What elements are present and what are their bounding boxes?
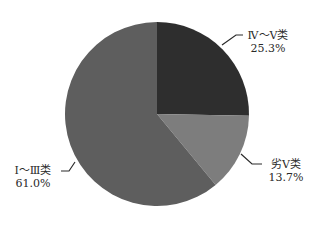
label-inferior-v-name: 劣Ⅴ类 xyxy=(258,158,314,171)
label-inferior-v: 劣Ⅴ类 13.7% xyxy=(258,158,314,184)
label-inferior-v-value: 13.7% xyxy=(258,171,314,184)
label-i-iii-value: 61.0% xyxy=(2,177,64,190)
label-i-iii: Ⅰ～Ⅲ类 61.0% xyxy=(2,164,64,190)
label-iv-v-name: Ⅳ～Ⅴ类 xyxy=(238,29,298,42)
label-iv-v-value: 25.3% xyxy=(238,42,298,55)
label-iv-v: Ⅳ～Ⅴ类 25.3% xyxy=(238,29,298,55)
label-i-iii-name: Ⅰ～Ⅲ类 xyxy=(2,164,64,177)
